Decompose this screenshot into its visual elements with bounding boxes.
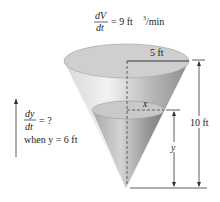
- height-arrow-down-icon: [197, 182, 201, 187]
- height-arrow-up-icon: [197, 61, 201, 66]
- dy-denominator: dt: [25, 121, 33, 132]
- dv-units: /min: [146, 16, 164, 27]
- dy-numerator: dy: [25, 108, 35, 119]
- cone-diagram: dV dt = 9 ft 3 /min 5 ft x 10 ft y dy dt…: [0, 0, 220, 202]
- rising-arrow-icon: [14, 98, 18, 104]
- dy-equals: = ?: [39, 115, 52, 126]
- dv-numerator: dV: [95, 10, 108, 21]
- water-radius-label: x: [142, 98, 148, 109]
- water-height-arrow-up-icon: [172, 111, 176, 116]
- water-volume: [92, 110, 164, 188]
- water-height-label: y: [170, 142, 176, 153]
- dv-denominator: dt: [96, 22, 104, 33]
- radius-label: 5 ft: [150, 47, 164, 58]
- dv-equals: = 9 ft: [111, 16, 133, 27]
- water-height-arrow-down-icon: [172, 182, 176, 187]
- height-label: 10 ft: [190, 117, 209, 128]
- dy-condition: when y = 6 ft: [24, 134, 78, 145]
